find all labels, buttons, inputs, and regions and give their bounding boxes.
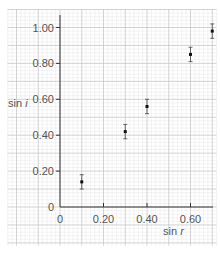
y-tick-label: 0.20 [33, 165, 54, 177]
y-tick-label: 0.60 [33, 93, 54, 105]
point-marker [189, 53, 192, 56]
x-axis-label: sin r [163, 225, 185, 237]
data-point [210, 24, 214, 38]
data-point [189, 47, 193, 61]
y-tick-label: 0.40 [33, 129, 54, 141]
y-tick-label: 0 [48, 201, 54, 213]
x-tick-label: 0 [57, 213, 63, 225]
y-tick-label: 1.00 [33, 22, 54, 34]
point-marker [124, 130, 127, 133]
x-tick-label: 0.40 [136, 213, 157, 225]
scatter-chart: 00.200.400.600.80 00.200.400.600.801.00 … [0, 0, 220, 254]
data-point [80, 175, 84, 189]
x-tick-label: 0.60 [180, 213, 201, 225]
data-point [123, 124, 127, 138]
point-marker [146, 105, 149, 108]
y-tick-label: 0.80 [33, 57, 54, 69]
point-marker [80, 180, 83, 183]
grid-minor-lines [8, 9, 217, 246]
data-point [145, 99, 149, 113]
x-tick-label: 0.20 [93, 213, 114, 225]
y-axis-label: sin i [8, 97, 28, 109]
point-marker [211, 30, 214, 33]
